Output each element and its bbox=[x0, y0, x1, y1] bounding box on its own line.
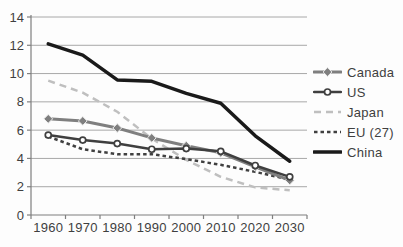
x-axis-label: 2030 bbox=[275, 220, 305, 235]
x-axis-label: 2000 bbox=[171, 220, 201, 235]
legend-label: US bbox=[347, 85, 366, 100]
circle-marker bbox=[325, 89, 331, 95]
y-axis-label: 2 bbox=[17, 179, 24, 194]
legend-item-eu-27: EU (27) bbox=[313, 125, 394, 139]
x-axis-label: 1990 bbox=[137, 220, 167, 235]
legend-item-china: China bbox=[313, 145, 394, 159]
legend-item-canada: Canada bbox=[313, 65, 394, 79]
china-line-sample-icon bbox=[313, 145, 342, 159]
circle-marker bbox=[149, 146, 155, 152]
y-axis-label: 0 bbox=[17, 208, 24, 223]
diamond-marker bbox=[323, 68, 332, 77]
eu-27-line-sample-icon bbox=[313, 125, 342, 139]
legend-label: EU (27) bbox=[347, 125, 394, 140]
circle-marker bbox=[287, 174, 293, 180]
circle-marker bbox=[183, 146, 189, 152]
y-axis-label: 12 bbox=[10, 38, 24, 53]
circle-marker bbox=[45, 132, 51, 138]
x-axis-label: 1970 bbox=[68, 220, 98, 235]
circle-marker bbox=[218, 148, 224, 154]
diamond-marker bbox=[113, 124, 122, 133]
circle-marker bbox=[114, 141, 120, 147]
us-line-sample-icon bbox=[313, 85, 342, 99]
y-axis-label: 8 bbox=[17, 94, 24, 109]
y-axis-label: 10 bbox=[10, 66, 24, 81]
japan-line-sample-icon bbox=[313, 105, 342, 119]
legend-label: Japan bbox=[347, 105, 384, 120]
series-us bbox=[45, 132, 293, 180]
legend-label: China bbox=[347, 145, 382, 160]
y-axis-label: 4 bbox=[17, 151, 24, 166]
circle-marker bbox=[252, 163, 258, 169]
circle-marker bbox=[80, 137, 86, 143]
y-axis-label: 14 bbox=[10, 10, 24, 25]
legend: Canada US Japan EU (27) China bbox=[313, 65, 394, 165]
legend-label: Canada bbox=[347, 65, 394, 80]
canada-line-sample-icon bbox=[313, 65, 342, 79]
diamond-marker bbox=[44, 114, 53, 123]
legend-item-japan: Japan bbox=[313, 105, 394, 119]
series-china bbox=[48, 44, 290, 161]
y-axis-label: 6 bbox=[17, 123, 24, 138]
diamond-marker bbox=[78, 117, 87, 126]
series-line bbox=[48, 44, 290, 161]
x-axis-label: 1980 bbox=[102, 220, 132, 235]
x-axis-label: 1960 bbox=[33, 220, 63, 235]
chart: 0246810121419601970198019902000201020202… bbox=[0, 0, 403, 247]
x-axis-label: 2020 bbox=[240, 220, 270, 235]
legend-item-us: US bbox=[313, 85, 394, 99]
x-axis-label: 2010 bbox=[206, 220, 236, 235]
